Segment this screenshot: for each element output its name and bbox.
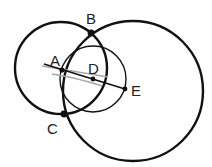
geometry-diagram: A B C D E xyxy=(0,0,212,167)
point-B xyxy=(88,30,95,37)
label-A: A xyxy=(50,52,60,69)
label-E: E xyxy=(131,82,141,99)
label-D: D xyxy=(88,60,99,77)
point-A xyxy=(59,67,64,72)
point-E xyxy=(123,87,128,92)
label-C: C xyxy=(47,120,58,137)
label-B: B xyxy=(86,10,96,27)
point-C xyxy=(61,111,68,118)
point-D xyxy=(91,77,96,82)
